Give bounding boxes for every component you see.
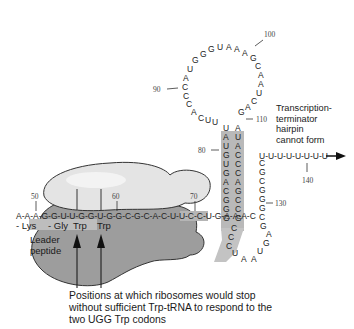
svg-text:U: U (187, 64, 193, 74)
svg-text:A: A (266, 229, 272, 239)
svg-text:G: G (263, 238, 270, 248)
svg-text:C: C (198, 113, 204, 123)
svg-text:A: A (242, 48, 248, 58)
hairpin-loop: U U C A C C C A U G G G U A A A G C A A … (182, 42, 264, 127)
svg-text:A: A (241, 254, 247, 264)
marker-60: 60 (112, 192, 120, 201)
residue-trp-1: Trp (73, 220, 87, 231)
svg-text:U: U (217, 42, 223, 52)
ribosome-small-subunit (44, 162, 211, 210)
marker-110: 110 (256, 115, 267, 124)
svg-text:G: G (238, 107, 245, 117)
svg-text:G: G (259, 194, 266, 204)
svg-text:C: C (259, 176, 265, 186)
svg-text:G: G (259, 167, 266, 177)
marker-130: 130 (275, 199, 287, 208)
svg-text:C: C (183, 91, 189, 101)
marker-100: 100 (264, 30, 276, 39)
leader-label: Leader (30, 234, 60, 245)
residue-lys: - Lys (16, 220, 36, 231)
marker-70: 70 (190, 192, 198, 201)
svg-text:A: A (226, 42, 232, 52)
peptide-label: peptide (30, 245, 61, 256)
svg-text:A: A (183, 73, 189, 83)
svg-text:U: U (205, 115, 211, 125)
svg-text:G: G (192, 55, 199, 65)
caption-line-1: Positions at which ribosomes would stop (69, 290, 329, 302)
poly-u-tract: U-U-U-U-U-U-U-U (259, 151, 328, 161)
caption: Positions at which ribosomes would stop … (69, 290, 329, 326)
svg-text:G: G (260, 221, 267, 231)
svg-text:C: C (251, 96, 257, 106)
svg-text:G: G (208, 44, 215, 54)
svg-text:G: G (259, 203, 266, 213)
svg-text:U: U (212, 117, 218, 127)
marker-90: 90 (153, 85, 161, 94)
svg-text:G: G (200, 49, 207, 59)
marker-140: 140 (302, 176, 314, 185)
svg-text:C: C (259, 212, 265, 222)
svg-text:G: G (235, 213, 242, 223)
marker-80: 80 (198, 146, 206, 155)
caption-line-2: without sufficient Trp-tRNA to respond t… (69, 302, 329, 314)
svg-text:C: C (182, 82, 188, 92)
caption-line-3: two UGG Trp codons (69, 314, 329, 326)
terminator-label: Transcription- terminator hairpin cannot… (276, 103, 332, 145)
attenuation-diagram: A-A-A-G-G-U-U-G-G-U-G-G-C-G-C-A-C-U-U-C-… (0, 0, 354, 329)
terminator-strand: C G G G C G C (259, 158, 266, 222)
svg-text:A: A (234, 44, 240, 54)
svg-text:G: G (223, 213, 230, 223)
arrow-right-icon (336, 152, 346, 160)
residue-trp-2: Trp (97, 220, 111, 231)
marker-50: 50 (31, 192, 39, 201)
svg-text:U: U (232, 248, 238, 258)
svg-text:G: G (259, 185, 266, 195)
residue-gly: - Gly (48, 220, 68, 231)
svg-text:A: A (245, 102, 251, 112)
